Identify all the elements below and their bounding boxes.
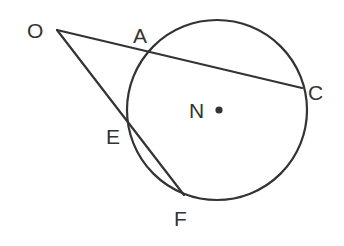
- label-f: F: [174, 207, 187, 230]
- label-c: C: [308, 81, 323, 104]
- geometry-diagram: O A C N E F: [0, 0, 344, 246]
- label-e: E: [106, 125, 120, 148]
- label-o: O: [27, 19, 43, 42]
- label-n: N: [189, 99, 204, 122]
- label-a: A: [133, 24, 147, 47]
- center-point-n: [215, 106, 222, 113]
